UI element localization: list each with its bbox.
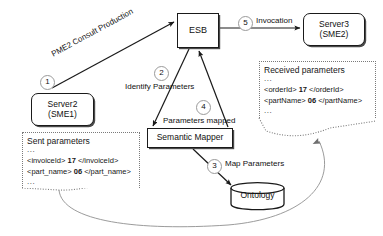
- node-server3[interactable]: Server3 (SME2): [303, 13, 365, 46]
- node-semantic-mapper-label: Semantic Mapper: [157, 133, 224, 143]
- edge-label-invocation: Invocation: [256, 16, 292, 25]
- doc-sent-row-invoiceid-value: 17: [67, 156, 75, 165]
- doc-sent-row-invoiceid-close: </invoiceId>: [78, 156, 118, 165]
- doc-received-text: Received parameters ... <orderId> 17 </o…: [264, 65, 362, 114]
- node-server3-sme: (SME2): [320, 30, 349, 40]
- doc-sent-ellipsis-bottom: ...: [27, 179, 131, 185]
- step-badge-4: 4: [196, 100, 211, 115]
- doc-sent-ellipsis-top: ...: [27, 147, 131, 153]
- doc-sent-row-partname-open: <part_name>: [27, 167, 72, 176]
- node-semantic-mapper[interactable]: Semantic Mapper: [147, 128, 233, 148]
- node-ontology-label: Ontology: [229, 191, 286, 200]
- doc-sent-row-partname: <part_name> 06 </part_name>: [27, 167, 131, 176]
- doc-received-row-orderid-close: </orderId>: [309, 85, 344, 94]
- edge-label-map-parameters: Map Parameters: [225, 159, 284, 168]
- doc-sent-row-partname-value: 06: [74, 167, 82, 176]
- doc-received-torn-edge: [259, 118, 376, 136]
- diagram-canvas: ESB Server3 (SME2) Server2 (SME1) Semant…: [0, 0, 383, 236]
- doc-sent-text: Sent parameters ... <invoiceId> 17 </inv…: [27, 136, 131, 185]
- node-ontology[interactable]: Ontology: [229, 181, 286, 211]
- node-server2[interactable]: Server2 (SME1): [31, 93, 94, 126]
- doc-received-row-partname-open: <partName>: [264, 96, 306, 105]
- doc-received-row-partname-value: 06: [308, 96, 316, 105]
- edge-label-identify-parameters: Identify Parameters: [125, 82, 194, 91]
- doc-received-ellipsis-top: ...: [264, 76, 362, 82]
- node-esb[interactable]: ESB: [177, 13, 219, 48]
- doc-received-row-partname: <partName> 06 </partName>: [264, 96, 362, 105]
- doc-sent-row-partname-close: </part_name>: [84, 167, 131, 176]
- step-badge-2: 2: [154, 66, 169, 81]
- node-server2-sme: (SME1): [48, 110, 77, 120]
- doc-sent-title: Sent parameters: [27, 136, 131, 146]
- doc-sent-row-invoiceid: <invoiceId> 17 </invoiceId>: [27, 156, 131, 165]
- step-badge-5: 5: [238, 16, 253, 31]
- doc-received-title: Received parameters: [264, 65, 362, 75]
- edge-label-consult-production: PME2 Consult Production: [50, 7, 135, 59]
- node-esb-label: ESB: [189, 25, 207, 35]
- doc-received-ellipsis-bottom: ...: [264, 108, 362, 114]
- doc-received-row-partname-close: </partName>: [318, 96, 362, 105]
- edge-label-parameters-mapped: Parameters mapped: [163, 116, 235, 125]
- doc-received-row-orderid-open: <orderId>: [264, 85, 297, 94]
- doc-sent-row-invoiceid-open: <invoiceId>: [27, 156, 65, 165]
- doc-received-row-orderid: <orderId> 17 </orderId>: [264, 85, 362, 94]
- doc-received-row-orderid-value: 17: [299, 85, 307, 94]
- step-badge-3: 3: [207, 159, 222, 174]
- step-badge-1: 1: [40, 75, 55, 90]
